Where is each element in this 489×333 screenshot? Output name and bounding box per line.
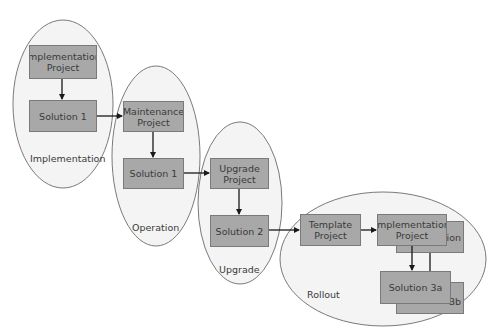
flow-arrows — [0, 0, 489, 333]
lifecycle-diagram: tion 3b Implementation Project Solution … — [0, 0, 489, 333]
